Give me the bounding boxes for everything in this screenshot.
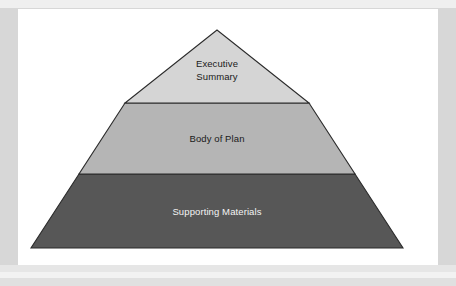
background-strip-bottom-upper: [0, 265, 456, 272]
tier-middle-label: Body of Plan: [189, 133, 244, 144]
tier-top-label-line1: Executive: [196, 58, 238, 69]
screenshot-page: Executive Summary Body of Plan Supportin…: [0, 0, 456, 286]
background-strip-bottom-lower: [0, 278, 456, 286]
figure-card: Executive Summary Body of Plan Supportin…: [18, 9, 438, 265]
background-strip-top: [0, 0, 456, 8]
pyramid-svg: Executive Summary Body of Plan Supportin…: [18, 9, 438, 265]
tier-top-label-line2: Summary: [196, 71, 237, 82]
tier-bottom-label: Supporting Materials: [172, 206, 261, 217]
pyramid-diagram: Executive Summary Body of Plan Supportin…: [18, 9, 438, 265]
